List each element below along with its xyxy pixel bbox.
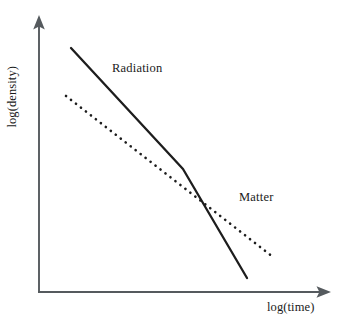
figure-container: log(density) log(time) Radiation Matter <box>0 0 352 333</box>
radiation-curve <box>71 48 247 278</box>
y-axis-label-text: log(density) <box>6 66 19 128</box>
plot-canvas <box>0 0 352 333</box>
matter-label: Matter <box>239 191 274 204</box>
x-axis-label: log(time) <box>267 301 314 314</box>
radiation-line <box>71 48 247 278</box>
matter-curve <box>66 96 273 257</box>
radiation-label: Radiation <box>112 62 162 75</box>
matter-line <box>66 96 273 257</box>
x-axis <box>38 286 331 298</box>
y-axis <box>33 15 45 292</box>
y-axis-label: log(density) <box>6 66 19 128</box>
